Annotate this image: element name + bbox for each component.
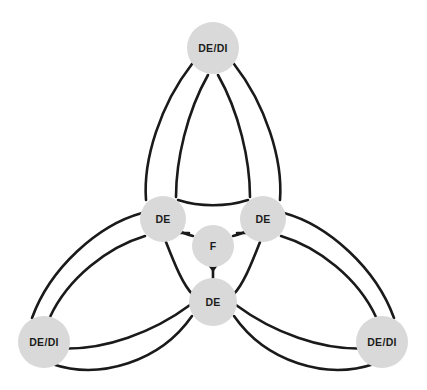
edge-top-outer-right-inner-inner [218,75,250,197]
node-right-outer-label: DE/DI [367,336,397,348]
node-top-outer-label: DE/DI [198,42,228,54]
node-center[interactable]: F [192,225,234,267]
edge-left-outer-left-inner-outer [32,213,142,318]
nodes-layer: DE/DI DE/DI DE/DI DE DE DE [18,22,408,368]
petal-top [146,64,281,205]
edge-right-outer-right-inner-inner [281,236,376,317]
node-right-inner[interactable]: DE [240,196,286,242]
edge-left-inner-bottom-inner [166,242,193,295]
edge-right-outer-right-inner-outer [284,213,394,318]
edge-right-inner-bottom-inner [233,242,260,295]
node-center-label: F [210,240,217,252]
node-left-outer[interactable]: DE/DI [18,316,70,368]
edge-top-outer-left-inner-inner [176,75,208,197]
edge-left-inner-right-inner [178,200,248,205]
node-left-inner[interactable]: DE [140,196,186,242]
node-bottom-inner[interactable]: DE [189,278,237,326]
node-bottom-inner-label: DE [205,296,220,308]
node-right-outer[interactable]: DE/DI [356,316,408,368]
node-top-outer[interactable]: DE/DI [187,22,239,74]
network-graph: DE/DI DE/DI DE/DI DE DE DE [0,0,427,390]
edge-left-outer-bottom-inner-outer [52,316,192,370]
node-left-outer-label: DE/DI [29,336,59,348]
diagram-canvas: DE/DI DE/DI DE/DI DE DE DE [0,0,427,390]
edge-left-outer-left-inner-inner [50,236,145,317]
node-right-inner-label: DE [255,213,270,225]
edge-right-outer-bottom-inner-outer [234,316,374,370]
node-left-inner-label: DE [155,213,170,225]
